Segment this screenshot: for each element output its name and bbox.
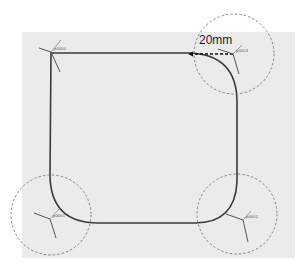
node-label-p0003: p0003	[236, 48, 248, 53]
diagram-svg	[0, 0, 308, 271]
node-label-p0002: p0002	[246, 214, 258, 219]
node-label-p0001: p0001	[53, 213, 65, 218]
rounded-outline-path[interactable]	[50, 53, 237, 223]
dimension-label: 20mm	[199, 33, 232, 47]
node-glyph-p0000[interactable]	[39, 40, 61, 72]
node-label-p0000: p0000	[54, 46, 66, 51]
